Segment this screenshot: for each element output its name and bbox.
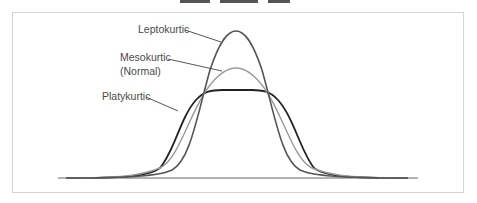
mesokurtic-label: Mesokurtic (120, 51, 171, 63)
leptokurtic-label: Leptokurtic (138, 23, 189, 35)
mesokurtic-curve (66, 68, 408, 178)
platykurtic-curve (66, 90, 408, 178)
platykurtic-label: Platykurtic (102, 90, 150, 102)
leptokurtic-curve (66, 31, 408, 178)
kurtosis-diagram: Leptokurtic Mesokurtic (Normal) Platykur… (0, 0, 477, 203)
leptokurtic-leader-line (185, 30, 221, 42)
normal-label: (Normal) (120, 65, 161, 77)
platykurtic-leader-line (146, 97, 178, 111)
